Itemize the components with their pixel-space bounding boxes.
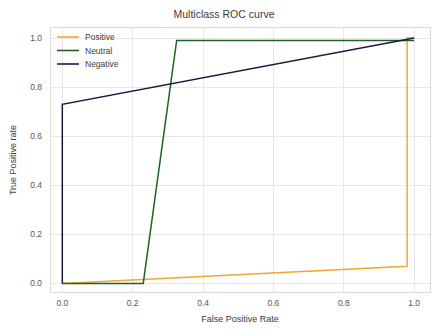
x-tick-label: 0.2: [127, 298, 139, 308]
y-tick-label: 0.6: [30, 131, 42, 141]
chart-legend: PositiveNeutralNegative: [57, 32, 119, 69]
chart-title: Multiclass ROC curve: [174, 8, 275, 20]
legend-label-positive: Positive: [85, 32, 115, 42]
roc-chart-figure: Multiclass ROC curve 0.00.20.40.60.81.0 …: [0, 0, 448, 332]
x-tick-label: 1.0: [408, 298, 420, 308]
x-tick-label: 0.8: [338, 298, 350, 308]
x-tick-label: 0.0: [56, 298, 68, 308]
y-tick-label: 0.8: [30, 82, 42, 92]
x-axis-label: False Positive Rate: [201, 314, 279, 324]
x-tick-label: 0.4: [197, 298, 209, 308]
roc-chart-svg: Multiclass ROC curve 0.00.20.40.60.81.0 …: [0, 0, 448, 332]
legend-label-neutral: Neutral: [85, 46, 113, 56]
y-tick-label: 0.4: [30, 180, 42, 190]
x-tick-label: 0.6: [268, 298, 280, 308]
y-tick-label: 0.0: [30, 278, 42, 288]
y-axis-label: True Positive rate: [8, 125, 18, 195]
y-tick-label: 0.2: [30, 229, 42, 239]
y-tick-label: 1.0: [30, 33, 42, 43]
legend-label-negative: Negative: [85, 59, 119, 69]
